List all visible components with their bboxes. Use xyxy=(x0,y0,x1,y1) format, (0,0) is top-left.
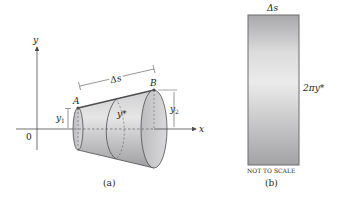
not-to-scale-note: NOT TO SCALE xyxy=(247,167,295,174)
x-axis-label: x xyxy=(199,124,204,134)
point-b-label: B xyxy=(149,78,157,88)
point-b xyxy=(152,88,155,91)
rect-side-label: 2πy* xyxy=(302,83,325,93)
figure-canvas: y 0 x A B Δs y 1 xyxy=(0,0,342,197)
origin-label: 0 xyxy=(26,132,32,142)
caption-b: (b) xyxy=(265,178,278,188)
caption-a: (a) xyxy=(103,178,115,188)
point-a xyxy=(76,106,79,109)
figure-b: Δs 2πy* NOT TO SCALE (b) xyxy=(247,3,325,188)
y2-subscript: 2 xyxy=(175,108,179,115)
point-a-label: A xyxy=(72,96,80,106)
y-axis-label: y xyxy=(32,35,39,45)
ystar-label: y* xyxy=(116,109,127,119)
rect-top-label: Δs xyxy=(266,3,278,13)
unrolled-band xyxy=(248,15,299,165)
y1-subscript: 1 xyxy=(61,117,65,124)
figure-a: y 0 x A B Δs y 1 xyxy=(16,35,204,188)
